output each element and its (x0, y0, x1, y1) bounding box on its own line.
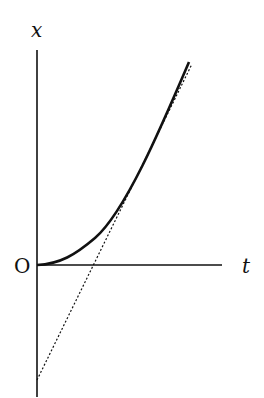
origin-label: O (14, 254, 30, 278)
y-axis-label: x (31, 18, 42, 42)
position-curve (37, 62, 189, 265)
position-time-graph: x t O (0, 0, 264, 398)
x-axis-label: t (242, 254, 251, 278)
